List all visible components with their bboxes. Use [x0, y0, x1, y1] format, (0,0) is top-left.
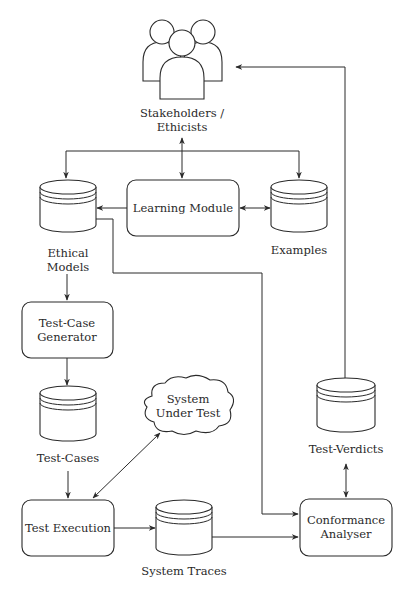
ethical-models-label-line1: Ethical — [47, 246, 88, 260]
database-icon — [40, 180, 96, 232]
node-examples[interactable]: Examples — [271, 180, 327, 257]
ethical-models-label-line2: Models — [47, 260, 90, 274]
test-execution-label: Test Execution — [25, 521, 112, 535]
stakeholders-label-line1: Stakeholders / — [140, 106, 224, 120]
database-icon — [40, 386, 96, 441]
edges — [66, 67, 346, 537]
examples-label: Examples — [271, 243, 327, 257]
test-verdicts-label: Test-Verdicts — [309, 442, 384, 456]
test-case-generator-label-line1: Test-Case — [39, 316, 96, 330]
node-learning-module[interactable]: Learning Module — [127, 180, 239, 236]
database-icon — [271, 180, 327, 232]
database-icon — [156, 500, 212, 555]
database-icon — [317, 378, 375, 432]
node-stakeholders[interactable]: Stakeholders / Ethicists — [140, 20, 224, 134]
conformance-analyser-label-line2: Analyser — [320, 527, 372, 541]
node-test-verdicts[interactable]: Test-Verdicts — [309, 378, 384, 456]
node-ethical-models[interactable]: Ethical Models — [40, 180, 96, 274]
system-traces-label: System Traces — [141, 564, 227, 578]
node-system-under-test[interactable]: System Under Test — [144, 375, 233, 434]
conformance-analyser-label-line1: Conformance — [307, 513, 385, 527]
system-diagram: Stakeholders / Ethicists Ethical Models … — [0, 0, 413, 595]
node-test-cases[interactable]: Test-Cases — [37, 386, 99, 465]
learning-module-label: Learning Module — [133, 201, 233, 215]
people-icon — [143, 20, 222, 99]
system-under-test-label-line1: System — [167, 392, 210, 406]
edge-stakeholders-ethical-models — [66, 151, 182, 178]
edge-test-execution-system-under-test — [93, 433, 160, 498]
edge-ethical-models-conformance-analyser — [95, 219, 298, 514]
stakeholders-label-line2: Ethicists — [157, 120, 208, 134]
test-cases-label: Test-Cases — [37, 451, 99, 465]
edge-stakeholders-examples — [182, 151, 299, 178]
node-test-case-generator[interactable]: Test-Case Generator — [22, 302, 113, 358]
node-system-traces[interactable]: System Traces — [141, 500, 227, 578]
node-test-execution[interactable]: Test Execution — [22, 500, 114, 556]
node-conformance-analyser[interactable]: Conformance Analyser — [300, 499, 392, 556]
system-under-test-label-line2: Under Test — [156, 406, 221, 420]
test-case-generator-label-line2: Generator — [37, 330, 97, 344]
